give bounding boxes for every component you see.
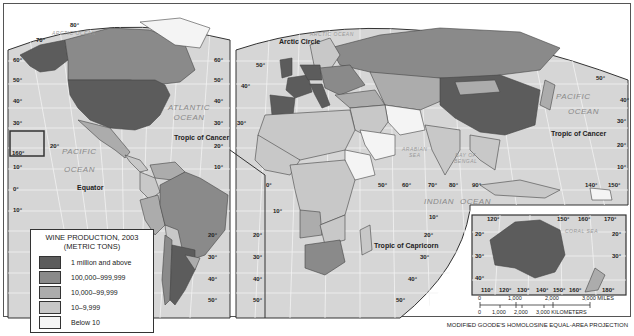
pacific-ocean-label-left-2: OCEAN — [64, 165, 95, 175]
aus-lon-160-bottom: 160° — [569, 287, 581, 293]
lon-0-label: 0° — [266, 182, 272, 188]
aus-lat-30: 30° — [475, 253, 484, 259]
lon-90-label: 90° — [472, 182, 481, 188]
aus-lon-120-bottom: 120° — [499, 287, 511, 293]
arabian-sea-label: ARABIANSEA — [402, 146, 427, 158]
tropic-of-capricorn-label: Tropic of Capricorn — [374, 242, 439, 249]
legend-swatch-class-1 — [39, 256, 61, 269]
scale-miles-3000: 3,000 MILES — [582, 295, 614, 301]
aus-lon-180-bottom: 180° — [602, 287, 614, 293]
country-spain — [270, 95, 295, 115]
indian-ocean-label-2: OCEAN — [460, 197, 491, 207]
legend-title: WINE PRODUCTION, 2003 — [31, 233, 153, 242]
scale-km-1000: 1,000 — [492, 309, 506, 315]
lat-40-label-pac: 40° — [620, 97, 629, 103]
lat-30s-label-in: 30° — [420, 254, 429, 260]
lat-50s-label-in: 50° — [396, 297, 405, 303]
lon-80-label: 80° — [449, 182, 458, 188]
lon-60-label: 60° — [402, 182, 411, 188]
legend-swatch-class-5 — [39, 316, 61, 329]
lat-40s-label-in: 40° — [408, 276, 417, 282]
aus-lon-170-top: 170° — [604, 216, 616, 222]
map-legend: WINE PRODUCTION, 2003 (METRIC TONS) 1 mi… — [30, 229, 154, 333]
legend-item: 1 million and above — [39, 256, 131, 269]
lat-30-label-right: 30° — [214, 120, 223, 126]
scale-miles-1000: 1,000 — [508, 295, 522, 301]
aus-lat-40: 40° — [475, 275, 484, 281]
atlantic-ocean-label: ATLANTICOCEAN — [168, 103, 210, 123]
lat-40-label: 40° — [13, 98, 22, 104]
aus-lon-110-bottom: 110° — [481, 287, 493, 293]
legend-item: 10–9,999 — [39, 301, 100, 314]
projection-label: MODIFIED GOODE'S HOMOLOSINE EQUAL-AREA P… — [447, 322, 628, 328]
lat-10s-label-in: 10° — [429, 214, 438, 220]
aus-lon-150-top: 150° — [557, 216, 569, 222]
tropic-of-cancer-label-right: Tropic of Cancer — [551, 130, 606, 137]
lat-30-label: 30° — [13, 120, 22, 126]
country-uk — [280, 58, 292, 78]
lon-70-label: 70° — [428, 182, 437, 188]
aus-lon-150-bottom: 150° — [553, 287, 565, 293]
aus-lat-20: 20° — [475, 231, 484, 237]
pacific-ocean-label-left: PACIFIC — [62, 147, 96, 157]
aus-lon-120-top: 120° — [487, 216, 499, 222]
lat-30-label-af: 30° — [237, 120, 246, 126]
legend-label: 100,000–999,999 — [71, 274, 126, 281]
tropic-of-cancer-label-left: Tropic of Cancer — [174, 134, 229, 141]
pacific-ocean-label-right: PACIFIC — [556, 92, 590, 102]
lat-60-label: 60° — [13, 57, 22, 63]
lat-50-label-eu: 50° — [256, 62, 265, 68]
lat-30s-label-af: 30° — [253, 254, 262, 260]
legend-swatch-class-4 — [39, 301, 61, 314]
aus-lat-30-right: 30° — [612, 253, 621, 259]
lat-10-label-pac: 10° — [617, 164, 626, 170]
lat-20s-label-in: 20° — [424, 232, 433, 238]
scale-km-2000: 2,000 — [514, 309, 528, 315]
lat-50-label-pac: 50° — [596, 75, 605, 81]
lat-10-label: 10° — [13, 164, 22, 170]
bengal-line2: BENGAL — [454, 158, 477, 164]
lat-30-label-pac: 30° — [617, 118, 626, 124]
lat-10s-label-af: 10° — [273, 208, 282, 214]
atlantic-line1: ATLANTIC — [168, 103, 210, 112]
madagascar — [360, 225, 372, 255]
scale-km-3000: 3,000 KILOMETERS — [536, 309, 587, 315]
aus-lon-140-bottom: 140° — [536, 287, 548, 293]
legend-label: 1 million and above — [71, 259, 131, 266]
legend-label: 10–9,999 — [71, 304, 100, 311]
lon-160-label: 160° — [12, 150, 24, 156]
legend-label: Below 10 — [71, 319, 100, 326]
papua — [590, 188, 612, 200]
lon-50-label: 50° — [378, 182, 387, 188]
lat-40s-label-sa: 40° — [208, 276, 217, 282]
lat-40s-label-af: 40° — [253, 276, 262, 282]
lat-20-label: 20° — [50, 143, 59, 149]
scale-km-0: 0 — [478, 309, 481, 315]
lat-10s-label: 10° — [13, 207, 22, 213]
country-mongolia — [455, 80, 500, 95]
atlantic-line2: OCEAN — [174, 113, 205, 122]
arabian-line2: SEA — [409, 152, 421, 158]
lat-20s-label-af: 20° — [253, 232, 262, 238]
lat-60-label-right: 60° — [214, 57, 223, 63]
arctic-circle-label: Arctic Circle — [279, 38, 320, 45]
scale-miles-2000: 2,000 — [545, 295, 559, 301]
pacific-ocean-label-right-2: OCEAN — [568, 107, 599, 117]
lat-70-label: 70° — [36, 37, 45, 43]
legend-swatch-class-3 — [39, 286, 61, 299]
aus-lat-20-right: 20° — [612, 231, 621, 237]
lat-40-label-right: 40° — [214, 98, 223, 104]
lat-40-label-eu: 40° — [241, 83, 250, 89]
legend-swatch-class-2 — [39, 271, 61, 284]
aus-lon-160-top: 160° — [578, 216, 590, 222]
legend-item: Below 10 — [39, 316, 100, 329]
lat-10-label-right: 10° — [214, 164, 223, 170]
pacific-left-line1: PACIFIC — [62, 147, 96, 156]
aus-lon-130-bottom: 130° — [517, 287, 529, 293]
legend-item: 100,000–999,999 — [39, 271, 126, 284]
lat-20-label-right: 20° — [214, 143, 223, 149]
legend-item: 10,000–99,999 — [39, 286, 118, 299]
lat-20-label-pac: 20° — [617, 142, 626, 148]
legend-label: 10,000–99,999 — [71, 289, 118, 296]
lon-150-label: 150° — [608, 182, 620, 188]
